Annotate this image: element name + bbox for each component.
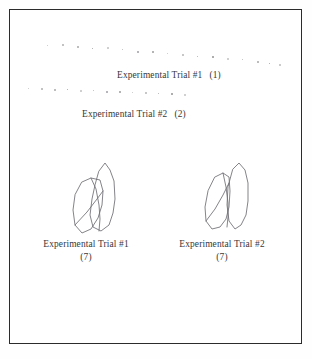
trace-dot (279, 64, 281, 66)
figure-page: Experimental Trial #1(1) Experimental Tr… (0, 0, 312, 359)
trace-dot (182, 54, 184, 56)
sketch-stroke (227, 163, 248, 229)
trace-dot (137, 51, 139, 53)
trace-dot (93, 90, 94, 91)
trace-dot (106, 91, 108, 93)
trace-dot (145, 92, 147, 94)
trace-dot (54, 89, 56, 91)
trial-1-dot-trace (10, 10, 301, 343)
trace-dot (67, 89, 68, 90)
hand-drawn-figure-trial-1 (67, 155, 123, 237)
trace-dot (47, 45, 48, 46)
trial-1-inline-label-text: Experimental Trial #1 (117, 70, 202, 80)
trial-2-caption: Experimental Trial #2 (7) (157, 238, 287, 263)
trace-dot (197, 56, 198, 57)
trace-dot (242, 59, 243, 60)
trial-1-inline-label: Experimental Trial #1(1) (117, 70, 221, 80)
trial-2-caption-line2: (7) (157, 251, 287, 264)
trace-dot (257, 61, 259, 63)
sketch-stroke (223, 173, 228, 227)
trace-dot (167, 53, 168, 54)
trace-dot (227, 58, 229, 60)
trace-dot (107, 47, 109, 49)
trace-dot (184, 94, 186, 96)
trial-2-caption-line1: Experimental Trial #2 (157, 238, 287, 251)
trial-2-inline-label-text: Experimental Trial #2 (82, 109, 167, 119)
trial-2-inline-label-number: (2) (174, 109, 185, 119)
trace-dot (41, 88, 43, 90)
trial-1-caption-line1: Experimental Trial #1 (21, 238, 151, 251)
trace-dot (212, 56, 214, 58)
sketch-stroke (73, 178, 103, 233)
page-border-frame: Experimental Trial #1(1) Experimental Tr… (9, 9, 302, 344)
sketch-stroke (205, 173, 230, 229)
trial-2-dot-trace (10, 10, 301, 343)
trace-dot (152, 51, 154, 53)
trial-1-caption: Experimental Trial #1 (7) (21, 238, 151, 263)
trace-dot (28, 88, 29, 89)
trial-1-inline-label-number: (1) (209, 70, 220, 80)
trial-2-inline-label: Experimental Trial #2(2) (82, 109, 186, 119)
trace-dot (119, 91, 121, 93)
trace-dot (171, 93, 173, 95)
trace-dot (77, 46, 79, 48)
trace-dot (269, 63, 270, 64)
trace-dot (158, 93, 159, 94)
trial-1-caption-line2: (7) (21, 251, 151, 264)
trace-dot (122, 49, 123, 50)
trace-dot (92, 48, 93, 49)
hand-drawn-figure-trial-2 (199, 159, 255, 237)
trace-dot (80, 90, 82, 92)
trace-dot (62, 44, 64, 46)
trace-dot (132, 92, 133, 93)
